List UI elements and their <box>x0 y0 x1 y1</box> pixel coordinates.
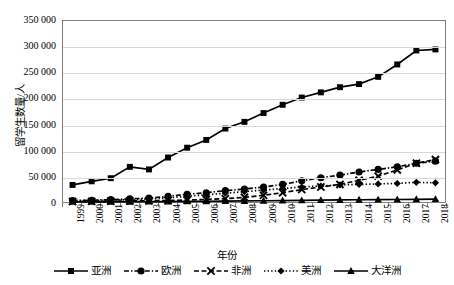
x-axis-title: 年份 <box>0 247 454 262</box>
data-point-marker <box>137 267 144 274</box>
x-axis-tick-label: 2012 <box>325 204 335 244</box>
x-axis-tick-label: 2005 <box>191 204 201 244</box>
data-point-marker <box>146 166 152 172</box>
gridline <box>63 47 445 48</box>
legend-key-x-icon <box>194 265 228 277</box>
data-point-marker <box>355 168 362 175</box>
x-axis-tick-label: 2009 <box>268 204 278 244</box>
data-point-marker <box>165 155 171 161</box>
data-point-marker <box>70 182 76 188</box>
y-axis-tick-labels: 350 000300 000250 000200 000150 000100 0… <box>10 0 56 285</box>
data-point-marker <box>375 180 382 187</box>
y-axis-tick-label: 50 000 <box>10 172 56 182</box>
chart-legend: 亚洲欧洲非洲美洲大洋洲 <box>0 262 454 280</box>
x-axis-tick-label: 2014 <box>364 204 374 244</box>
data-point-marker <box>375 166 382 173</box>
data-point-marker <box>89 178 95 184</box>
x-axis-tick-label: 2006 <box>210 204 220 244</box>
data-point-marker <box>337 84 343 90</box>
x-axis-tick-label: 2015 <box>383 204 393 244</box>
data-point-marker <box>203 137 209 143</box>
x-axis-tick-label: 2008 <box>248 204 258 244</box>
x-axis-tick-label: 2018 <box>440 204 450 244</box>
legend-item-亚洲[interactable]: 亚洲 <box>54 265 111 277</box>
x-axis-tick-label: 2013 <box>344 204 354 244</box>
x-axis-tick-label: 2016 <box>402 204 412 244</box>
legend-label: 美洲 <box>301 265 321 277</box>
legend-key-diamond-icon <box>264 265 298 277</box>
y-axis-tick-label: 300 000 <box>10 41 56 51</box>
data-point-marker <box>261 110 267 116</box>
legend-item-美洲[interactable]: 美洲 <box>264 265 321 277</box>
y-axis-tick-label: 100 000 <box>10 146 56 156</box>
data-point-marker <box>375 74 381 80</box>
y-axis-tick-label: 350 000 <box>10 15 56 25</box>
x-axis-tick-label: 2010 <box>287 204 297 244</box>
x-axis-tick-label: 1999 <box>76 204 86 244</box>
data-point-marker <box>318 89 324 95</box>
data-point-marker <box>68 268 74 274</box>
x-axis-tick-label: 2001 <box>114 204 124 244</box>
data-point-marker <box>184 145 190 151</box>
x-axis-tick-labels: 1999200020012002200320042005200620072008… <box>62 206 446 246</box>
legend-key-square-icon <box>54 265 88 277</box>
legend-label: 大洋洲 <box>371 265 401 277</box>
legend-item-欧洲[interactable]: 欧洲 <box>124 265 181 277</box>
x-axis-tick-label: 2007 <box>229 204 239 244</box>
series-layer <box>63 21 445 202</box>
x-axis-tick-label: 2002 <box>133 204 143 244</box>
gridline <box>63 178 445 179</box>
legend-label: 亚洲 <box>91 265 111 277</box>
gridline <box>63 152 445 153</box>
y-axis-tick-label: 150 000 <box>10 120 56 130</box>
data-point-marker <box>127 164 133 170</box>
series-亚洲 <box>70 46 439 187</box>
x-axis-tick-label: 2017 <box>421 204 431 244</box>
data-point-marker <box>356 81 362 87</box>
gridline <box>63 99 445 100</box>
data-point-marker <box>394 61 400 67</box>
legend-key-circle-icon <box>124 265 158 277</box>
x-axis-tick-label: 2004 <box>172 204 182 244</box>
gridline <box>63 73 445 74</box>
data-point-marker <box>432 179 439 186</box>
x-axis-tick-label: 2011 <box>306 204 316 244</box>
chart-container: 留学生数量/人 350 000300 000250 000200 000150 … <box>0 0 454 285</box>
y-axis-tick-label: 200 000 <box>10 93 56 103</box>
y-axis-tick-label: 0 <box>10 198 56 208</box>
legend-key-triangle-icon <box>334 265 368 277</box>
data-point-marker <box>394 180 401 187</box>
data-point-marker <box>277 267 284 274</box>
x-axis-tick-label: 2000 <box>95 204 105 244</box>
data-point-marker <box>413 179 420 186</box>
legend-item-大洋洲[interactable]: 大洋洲 <box>334 265 401 277</box>
x-axis-tick-label: 2003 <box>152 204 162 244</box>
plot-area <box>62 20 446 203</box>
series-非洲 <box>69 156 439 205</box>
gridline <box>63 126 445 127</box>
legend-label: 非洲 <box>231 265 251 277</box>
data-point-marker <box>413 48 419 54</box>
y-axis-tick-label: 250 000 <box>10 67 56 77</box>
legend-label: 欧洲 <box>161 265 181 277</box>
legend-item-非洲[interactable]: 非洲 <box>194 265 251 277</box>
data-point-marker <box>280 102 286 108</box>
data-point-marker <box>241 119 247 125</box>
